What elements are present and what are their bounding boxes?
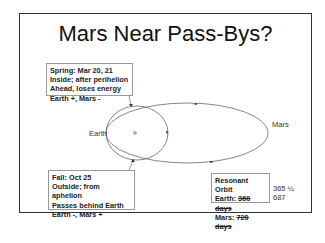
spring-line: Spring: Mar 20, 21: [50, 66, 129, 75]
earth-orbit: [106, 106, 168, 160]
fall-line: Passes behind Earth: [52, 201, 131, 210]
spring-line: Earth +, Mars -: [50, 94, 129, 103]
resonant-earth-line: Earth: 360 days: [215, 194, 266, 212]
fall-line: Earth -, Mars +: [52, 210, 131, 219]
mars-label: Mars: [272, 120, 289, 129]
fall-line: Outside; from aphelion: [52, 182, 131, 200]
fall-callout: Fall: Oct 25 Outside; from aphelion Pass…: [48, 170, 135, 210]
earth-actual-period: 365 ¼: [273, 184, 294, 193]
resonant-orbit-callout: Resonant Orbit Earth: 360 days Mars: 720…: [211, 173, 270, 203]
mars-actual-period: 687: [273, 193, 286, 202]
mars-orbit: [106, 103, 268, 163]
spring-pointer: [129, 96, 131, 105]
earth-label: Earth: [89, 129, 107, 138]
resonant-heading: Resonant Orbit: [215, 176, 266, 194]
sun-icon: [134, 132, 137, 135]
fall-line: Fall: Oct 25: [52, 173, 131, 182]
spring-line: Inside; after perihelion: [50, 75, 129, 84]
resonant-mars-line: Mars: 720 days: [215, 213, 266, 231]
fall-pointer: [129, 161, 133, 170]
spring-line: Ahead, loses energy: [50, 84, 129, 93]
spring-callout: Spring: Mar 20, 21 Inside; after perihel…: [46, 63, 133, 96]
